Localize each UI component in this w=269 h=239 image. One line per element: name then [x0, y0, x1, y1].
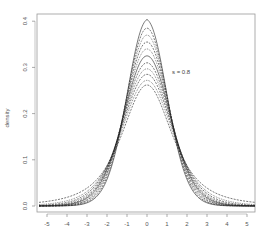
density-curve	[39, 19, 255, 206]
annotation-s-value: s = 0.8	[172, 69, 191, 75]
density-chart: -5-4-3-2-1012345 0.00.10.20.30.4 density…	[0, 0, 269, 239]
x-tick-label: 5	[245, 221, 249, 227]
density-curve	[39, 42, 255, 206]
density-curve	[39, 35, 255, 206]
x-tick-label: 0	[145, 221, 149, 227]
y-tick-label: 0.0	[22, 201, 28, 210]
x-tick-label: -3	[84, 221, 90, 227]
x-axis: -5-4-3-2-1012345	[44, 214, 249, 227]
density-curve	[39, 28, 255, 206]
density-curve	[39, 56, 255, 206]
y-tick-label: 0.2	[22, 109, 28, 118]
density-curve	[39, 49, 255, 206]
y-tick-label: 0.4	[22, 16, 28, 25]
y-axis-label: density	[4, 108, 10, 127]
x-tick-label: 2	[185, 221, 189, 227]
y-axis: 0.00.10.20.30.4	[22, 16, 35, 210]
x-tick-label: -2	[104, 221, 110, 227]
density-curve	[39, 80, 255, 204]
x-tick-label: 4	[225, 221, 229, 227]
x-tick-label: -5	[44, 221, 50, 227]
density-curve	[39, 85, 255, 202]
x-tick-label: -4	[64, 221, 70, 227]
density-curves	[39, 19, 255, 206]
x-tick-label: 3	[205, 221, 209, 227]
x-tick-label: -1	[124, 221, 130, 227]
y-tick-label: 0.1	[22, 155, 28, 164]
plot-frame	[37, 14, 255, 212]
x-tick-label: 1	[165, 221, 169, 227]
y-tick-label: 0.3	[22, 63, 28, 72]
density-curve	[39, 74, 255, 205]
density-curve	[39, 63, 255, 206]
density-curve	[39, 69, 255, 206]
